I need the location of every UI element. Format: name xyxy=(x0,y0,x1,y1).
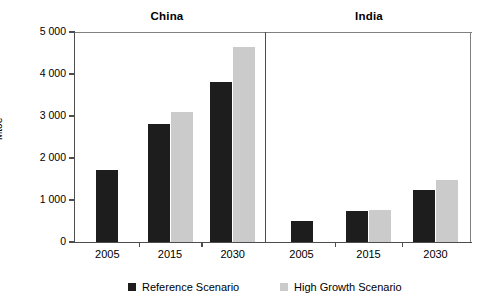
legend-label-reference: Reference Scenario xyxy=(142,281,239,293)
y-axis-tick-mark xyxy=(69,115,75,116)
legend-label-high-growth: High Growth Scenario xyxy=(294,281,402,293)
plot-frame-top-china xyxy=(74,32,266,33)
bar-china-2005-reference-scenario xyxy=(96,170,118,242)
y-axis-tick-mark xyxy=(69,157,75,158)
y-axis-tick-label: 1 000 xyxy=(14,193,66,205)
bar-china-2030-high-growth-scenario xyxy=(233,47,255,242)
legend-swatch-icon-high-growth xyxy=(280,283,288,291)
x-axis-tick-label: 2015 xyxy=(356,248,380,260)
bar-china-2015-reference-scenario xyxy=(148,124,170,242)
bar-india-2030-high-growth-scenario xyxy=(436,180,458,242)
legend-item-high-growth-scenario: High Growth Scenario xyxy=(280,281,402,293)
bar-india-2015-reference-scenario xyxy=(346,211,368,242)
x-axis-tick-label: 2005 xyxy=(289,248,313,260)
bar-china-2030-reference-scenario xyxy=(210,82,232,242)
bar-india-2015-high-growth-scenario xyxy=(369,210,391,242)
x-axis-tick-label: 2005 xyxy=(95,248,119,260)
x-axis-tick-label: 2030 xyxy=(220,248,244,260)
panel-title-china: China xyxy=(74,10,260,22)
chart-figure: China India 5 0004 0003 0002 0001 0000 M… xyxy=(0,0,482,308)
panel-title-india: India xyxy=(264,10,474,22)
x-axis-tick-label: 2015 xyxy=(158,248,182,260)
y-axis-tick-mark xyxy=(69,73,75,74)
bar-india-2005-reference-scenario xyxy=(291,221,313,242)
y-axis-tick-label: 3 000 xyxy=(14,109,66,121)
bar-china-2015-high-growth-scenario xyxy=(171,112,193,242)
y-axis-label: Mtoe xyxy=(0,118,4,140)
x-axis-tick-mark xyxy=(402,242,403,247)
x-axis-tick-mark xyxy=(201,242,202,247)
y-axis-line xyxy=(74,32,75,243)
plot-frame-top-india xyxy=(266,32,472,33)
legend-item-reference-scenario: Reference Scenario xyxy=(128,281,239,293)
y-axis-tick-label: 2 000 xyxy=(14,151,66,163)
x-axis-tick-label: 2030 xyxy=(423,248,447,260)
y-axis-tick-mark xyxy=(69,199,75,200)
panel-divider xyxy=(265,32,266,243)
legend-swatch-icon-reference xyxy=(128,283,136,291)
y-axis-tick-labels: 5 0004 0003 0002 0001 0000 xyxy=(10,0,66,308)
y-axis-tick-label: 0 xyxy=(14,235,66,247)
plot-frame-right xyxy=(470,32,471,243)
y-axis-tick-label: 5 000 xyxy=(14,25,66,37)
y-axis-tick-mark xyxy=(69,31,75,32)
chart-legend: Reference Scenario High Growth Scenario xyxy=(0,281,482,301)
x-axis-tick-mark xyxy=(139,242,140,247)
x-axis-tick-mark xyxy=(335,242,336,247)
y-axis-tick-label: 4 000 xyxy=(14,67,66,79)
x-axis-line xyxy=(74,242,472,243)
bar-india-2030-reference-scenario xyxy=(413,190,435,243)
